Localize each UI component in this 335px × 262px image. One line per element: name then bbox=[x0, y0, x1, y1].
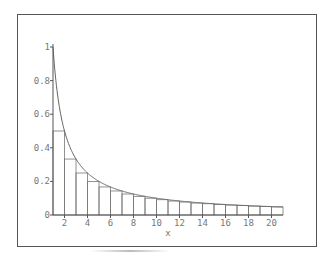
bar bbox=[180, 202, 192, 215]
bar bbox=[122, 194, 134, 215]
y-tick-label: 0.4 bbox=[34, 143, 50, 153]
bar bbox=[145, 198, 157, 215]
x-tick-label: 2 bbox=[62, 218, 67, 228]
x-tick-label: 8 bbox=[131, 218, 136, 228]
y-tick-label: 1 bbox=[45, 42, 50, 52]
x-tick-label: 10 bbox=[151, 218, 162, 228]
x-tick-label: 12 bbox=[174, 218, 185, 228]
x-tick-label: 20 bbox=[266, 218, 277, 228]
riemann-sum-chart: 2468101214161820 00.20.40.60.81 x bbox=[0, 0, 335, 262]
bar bbox=[134, 196, 146, 215]
y-tick-label: 0.8 bbox=[34, 76, 50, 86]
x-ticks: 2468101214161820 bbox=[62, 215, 277, 228]
bar bbox=[53, 131, 65, 215]
bar bbox=[168, 201, 180, 215]
bar bbox=[214, 204, 226, 215]
bar bbox=[88, 181, 100, 215]
bar bbox=[260, 207, 272, 215]
x-tick-label: 14 bbox=[197, 218, 208, 228]
bar bbox=[65, 159, 77, 215]
bar bbox=[272, 207, 284, 215]
bar bbox=[111, 191, 123, 215]
y-ticks: 00.20.40.60.81 bbox=[34, 42, 53, 220]
bar bbox=[191, 203, 203, 215]
y-tick-label: 0 bbox=[45, 210, 50, 220]
y-tick-label: 0.6 bbox=[34, 109, 50, 119]
bar bbox=[203, 204, 215, 215]
x-tick-label: 4 bbox=[85, 218, 90, 228]
x-axis-label: x bbox=[165, 228, 171, 238]
bar bbox=[157, 200, 169, 215]
x-tick-label: 16 bbox=[220, 218, 231, 228]
bar bbox=[76, 173, 88, 215]
bar bbox=[226, 205, 238, 215]
x-tick-label: 6 bbox=[108, 218, 113, 228]
y-tick-label: 0.2 bbox=[34, 176, 50, 186]
bar bbox=[249, 206, 261, 215]
x-tick-label: 18 bbox=[243, 218, 254, 228]
bar bbox=[99, 187, 111, 215]
bar bbox=[237, 206, 249, 215]
